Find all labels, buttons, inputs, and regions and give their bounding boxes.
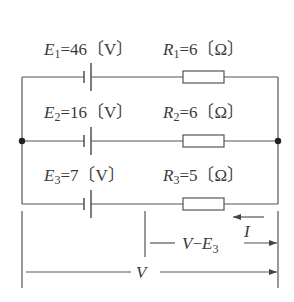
v-label: V (136, 263, 149, 282)
v-minus-e3-label: V−E3 (182, 234, 218, 256)
e2-label: E2=16〔V〕 (43, 103, 133, 124)
e3-label: E3=7〔V〕 (43, 166, 125, 187)
branch-1: E1=46〔V〕 R1=6〔Ω〕 (22, 40, 278, 91)
r1-label: R1=6〔Ω〕 (162, 40, 244, 61)
branch-2: E2=16〔V〕 R2=6〔Ω〕 (19, 103, 281, 155)
r3-label: R3=5〔Ω〕 (162, 166, 244, 187)
circuit-diagram: E1=46〔V〕 R1=6〔Ω〕 E2=16〔V〕 R2=6〔Ω〕 E3=7〔V… (0, 0, 294, 302)
node-dot-right (275, 138, 281, 144)
r2-label: R2=6〔Ω〕 (162, 103, 244, 124)
branch-3: E3=7〔V〕 R3=5〔Ω〕 (22, 166, 278, 218)
e1-label: E1=46〔V〕 (43, 40, 133, 61)
resistor-icon (183, 198, 224, 210)
node-dot-left (19, 138, 25, 144)
resistor-icon (183, 71, 224, 83)
resistor-icon (183, 135, 224, 147)
current-label: I (243, 222, 251, 241)
measurement-annotations: I V−E3 V (22, 211, 278, 288)
